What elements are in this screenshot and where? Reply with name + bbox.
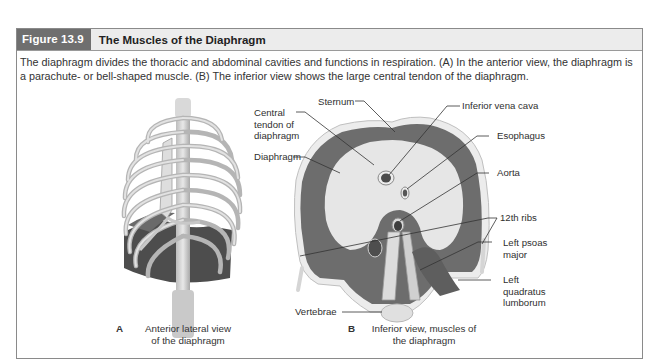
panel-a-caption: Anterior lateral view of the diaphragm [145,323,231,346]
label-left-psoas-major: Left psoas major [503,237,547,260]
label-vertebrae: Vertebrae [295,306,337,318]
label-aorta: Aorta [497,167,520,179]
label-sternum: Sternum [318,96,354,108]
panel-b-letter: B [348,323,355,335]
panel-b-subtitle: B Inferior view, muscles of the diaphrag… [360,323,488,347]
label-inferior-vena-cava: Inferior vena cava [462,100,538,112]
label-diaphragm: Diaphragm [254,151,301,163]
panel-a-letter: A [116,323,123,335]
panel-a-figure [124,98,240,338]
panel-b-caption: Inferior view, muscles of the diaphragm [372,323,477,346]
label-12th-ribs: 12th ribs [500,212,537,224]
label-left-quadratus-lumborum: Left quadratus lumborum [503,274,546,309]
panel-b-figure [294,117,489,322]
panel-a-subtitle: A Anterior lateral view of the diaphragm [128,323,248,347]
label-central-tendon: Central tendon of diaphragm [254,107,299,142]
label-esophagus: Esophagus [497,130,545,142]
